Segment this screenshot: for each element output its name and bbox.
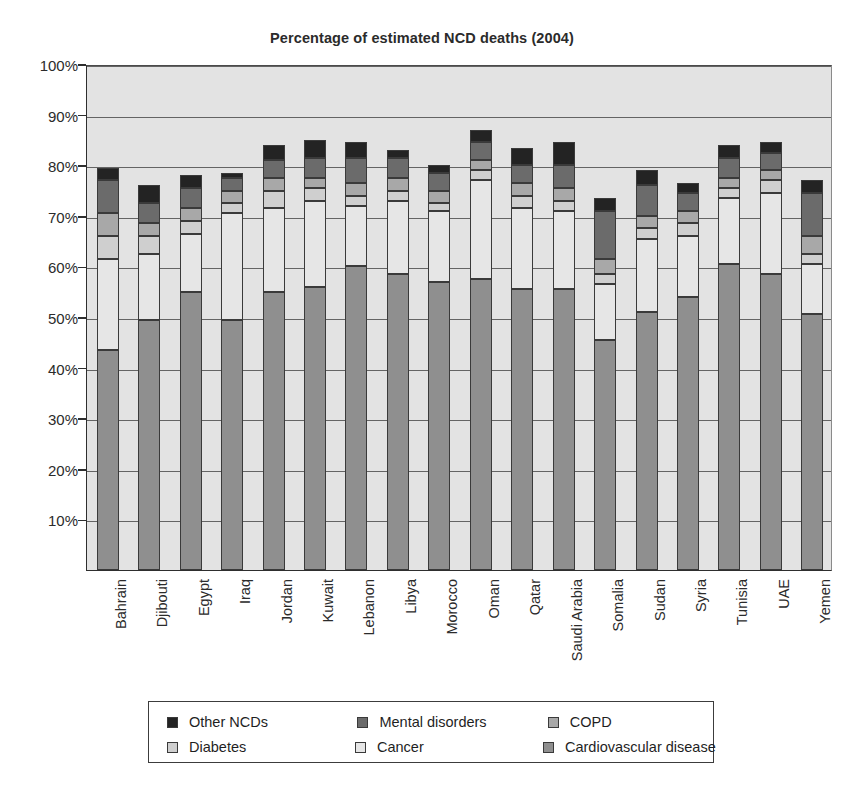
- bar-segment-diabetes: [138, 236, 160, 254]
- bar-segment-cancer: [304, 201, 326, 287]
- bar-segment-copd: [594, 259, 616, 274]
- bar-segment-cardiovascular-disease: [511, 289, 533, 570]
- y-tick-mark: [78, 165, 86, 167]
- x-tick-label: Kuwait: [320, 579, 336, 623]
- legend-item-other-ncds[interactable]: Other NCDs: [167, 714, 357, 730]
- bar-segment-cancer: [263, 208, 285, 291]
- bar-segment-cancer: [387, 201, 409, 274]
- bar-segment-cardiovascular-disease: [760, 274, 782, 570]
- bar-segment-copd: [553, 188, 575, 201]
- x-tick-label: Yemen: [817, 579, 833, 624]
- bar-segment-mental-disorders: [594, 211, 616, 259]
- bar-segment-cancer: [180, 234, 202, 292]
- bar-segment-copd: [97, 213, 119, 236]
- bar-syria[interactable]: [677, 64, 699, 570]
- y-tick-mark: [78, 115, 86, 117]
- bar-tunisia[interactable]: [718, 64, 740, 570]
- bar-segment-diabetes: [304, 188, 326, 201]
- bar-jordan[interactable]: [263, 64, 285, 570]
- legend-item-cardiovascular-disease[interactable]: Cardiovascular disease: [543, 739, 713, 755]
- legend-swatch-icon: [355, 742, 366, 753]
- bar-segment-other-ncds: [428, 165, 450, 173]
- bar-segment-other-ncds: [718, 145, 740, 158]
- bar-segment-copd: [263, 178, 285, 191]
- y-tick-mark: [78, 267, 86, 269]
- bar-segment-copd: [387, 178, 409, 191]
- bar-segment-other-ncds: [97, 168, 119, 181]
- bar-segment-diabetes: [636, 228, 658, 238]
- bar-segment-cancer: [553, 211, 575, 289]
- bar-yemen[interactable]: [801, 64, 823, 570]
- bar-segment-mental-disorders: [138, 203, 160, 223]
- bar-bahrain[interactable]: [97, 64, 119, 570]
- bar-segment-other-ncds: [553, 142, 575, 165]
- bar-segment-diabetes: [221, 203, 243, 213]
- bar-iraq[interactable]: [221, 64, 243, 570]
- bar-segment-mental-disorders: [718, 158, 740, 178]
- legend-label: Cancer: [377, 739, 424, 755]
- legend-label: Mental disorders: [379, 714, 486, 730]
- bar-sudan[interactable]: [636, 64, 658, 570]
- bar-segment-other-ncds: [345, 142, 367, 157]
- x-tick-label: Saudi Arabia: [569, 579, 585, 661]
- bar-segment-cardiovascular-disease: [428, 282, 450, 570]
- bar-segment-copd: [718, 178, 740, 188]
- x-tick-label: Iraq: [237, 579, 253, 604]
- bar-segment-mental-disorders: [636, 185, 658, 215]
- bar-segment-mental-disorders: [387, 158, 409, 178]
- bar-segment-copd: [180, 208, 202, 221]
- bar-segment-cardiovascular-disease: [387, 274, 409, 570]
- legend-label: COPD: [570, 714, 612, 730]
- bar-kuwait[interactable]: [304, 64, 326, 570]
- bar-segment-cardiovascular-disease: [594, 340, 616, 570]
- bar-djibouti[interactable]: [138, 64, 160, 570]
- bar-saudi-arabia[interactable]: [553, 64, 575, 570]
- x-tick-label: Libya: [403, 579, 419, 614]
- bar-segment-cardiovascular-disease: [801, 314, 823, 570]
- x-tick-label: Sudan: [652, 579, 668, 621]
- bar-segment-other-ncds: [470, 130, 492, 143]
- bar-segment-diabetes: [180, 221, 202, 234]
- bar-segment-mental-disorders: [180, 188, 202, 208]
- x-tick-label: Bahrain: [113, 579, 129, 629]
- bar-segment-copd: [304, 178, 326, 188]
- bar-segment-other-ncds: [387, 150, 409, 158]
- bar-segment-cardiovascular-disease: [470, 279, 492, 570]
- bar-segment-diabetes: [553, 201, 575, 211]
- bar-segment-cancer: [718, 198, 740, 264]
- bar-segment-cancer: [677, 236, 699, 297]
- legend-swatch-icon: [167, 717, 178, 728]
- bar-segment-cardiovascular-disease: [636, 312, 658, 570]
- bar-libya[interactable]: [387, 64, 409, 570]
- bar-egypt[interactable]: [180, 64, 202, 570]
- bar-morocco[interactable]: [428, 64, 450, 570]
- bar-segment-mental-disorders: [428, 173, 450, 191]
- legend-item-mental-disorders[interactable]: Mental disorders: [357, 714, 547, 730]
- bar-segment-diabetes: [677, 223, 699, 236]
- bar-somalia[interactable]: [594, 64, 616, 570]
- bar-segment-mental-disorders: [345, 158, 367, 183]
- legend-swatch-icon: [357, 717, 368, 728]
- bar-lebanon[interactable]: [345, 64, 367, 570]
- bar-segment-diabetes: [428, 203, 450, 211]
- bar-segment-copd: [138, 223, 160, 236]
- bar-segment-mental-disorders: [677, 193, 699, 211]
- legend-item-cancer[interactable]: Cancer: [355, 739, 543, 755]
- legend-item-copd[interactable]: COPD: [548, 714, 713, 730]
- y-tick-mark: [78, 469, 86, 471]
- legend-item-diabetes[interactable]: Diabetes: [167, 739, 355, 755]
- bar-uae[interactable]: [760, 64, 782, 570]
- bar-segment-cardiovascular-disease: [263, 292, 285, 570]
- bar-segment-cancer: [428, 211, 450, 282]
- x-tick-label: Egypt: [196, 579, 212, 616]
- x-tick-label: Jordan: [279, 579, 295, 623]
- bar-segment-cardiovascular-disease: [97, 350, 119, 570]
- bar-segment-cancer: [221, 213, 243, 319]
- bar-segment-mental-disorders: [263, 160, 285, 178]
- bar-oman[interactable]: [470, 64, 492, 570]
- x-tick-label: Oman: [486, 579, 502, 619]
- y-tick-mark: [78, 368, 86, 370]
- x-tick-label: Lebanon: [361, 579, 377, 635]
- bar-qatar[interactable]: [511, 64, 533, 570]
- bar-segment-other-ncds: [511, 148, 533, 166]
